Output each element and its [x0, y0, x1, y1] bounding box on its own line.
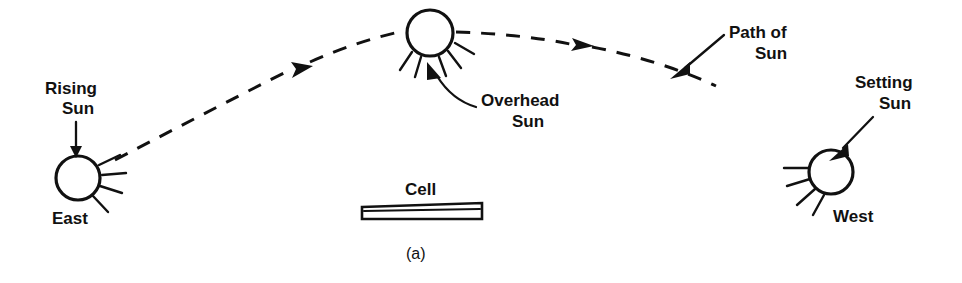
label-cell: Cell: [405, 180, 436, 199]
dashed-arc-icon-left: [115, 69, 292, 160]
dashed-arc-icon-left-upper: [310, 31, 404, 62]
solar-cell-slab-icon: [362, 203, 482, 219]
sun-icon-rising: [56, 156, 100, 200]
leader-line-setting-sun: [843, 117, 873, 148]
label-path-of-sun-line2: Sun: [755, 44, 787, 63]
figure-caption: (a): [406, 245, 426, 262]
leader-line-overhead-sun: [437, 76, 476, 107]
label-overhead-sun-line2: Sun: [512, 112, 544, 131]
label-rising-sun-line1: Rising: [45, 79, 97, 98]
sun-path-diagram: Rising Sun East Overhead Sun Path of Sun: [0, 0, 962, 283]
label-east: East: [52, 209, 88, 228]
label-overhead-sun-line1: Overhead: [481, 91, 559, 110]
label-setting-sun-line1: Setting: [855, 73, 913, 92]
dashed-arc-icon-right: [592, 47, 716, 86]
label-west: West: [833, 207, 874, 226]
sun-path-figure: Rising Sun East Overhead Sun Path of Sun: [0, 0, 962, 283]
arrow-head-icon-ascending: [291, 62, 313, 78]
arrow-head-icon-overhead-sun: [427, 62, 441, 80]
leader-line-path-of-sun: [685, 35, 724, 68]
arrow-head-icon-descending: [571, 38, 594, 51]
label-rising-sun-line2: Sun: [62, 99, 94, 118]
sun-icon-overhead: [407, 10, 453, 56]
label-setting-sun-line2: Sun: [879, 94, 911, 113]
arrow-head-icon-path-of-sun: [670, 62, 690, 79]
label-path-of-sun-line1: Path of: [729, 23, 787, 42]
dashed-arc-icon-right-upper: [456, 32, 570, 44]
